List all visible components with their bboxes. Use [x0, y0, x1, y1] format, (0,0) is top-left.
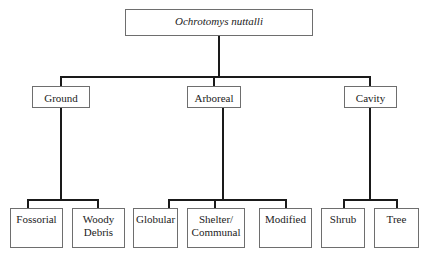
- node-ground: Ground: [32, 86, 90, 108]
- node-modified: Modified: [259, 208, 312, 248]
- node-arboreal-label: Arboreal: [194, 92, 233, 104]
- connector-arboreal-bar: [168, 199, 287, 201]
- connector-to-ground: [60, 76, 62, 86]
- node-woody-debris: Woody Debris: [72, 208, 125, 248]
- node-shelter-communal-label: Shelter/ Communal: [192, 213, 241, 238]
- node-modified-label: Modified: [265, 213, 306, 225]
- connector-to-shrub: [343, 199, 345, 208]
- node-arboreal: Arboreal: [187, 86, 241, 108]
- node-globular-label: Globular: [136, 213, 175, 225]
- node-globular: Globular: [133, 208, 178, 248]
- connector-to-globular: [168, 199, 170, 208]
- connector-to-tree: [396, 199, 398, 208]
- node-ground-label: Ground: [44, 92, 78, 104]
- connector-root-trunk: [218, 36, 220, 78]
- connector-to-shelter: [214, 199, 216, 208]
- node-tree: Tree: [374, 208, 419, 248]
- connector-to-cavity: [369, 76, 371, 86]
- connector-ground-down: [60, 108, 62, 201]
- node-cavity-label: Cavity: [356, 92, 385, 104]
- node-fossorial: Fossorial: [10, 208, 63, 248]
- node-tree-label: Tree: [387, 213, 407, 225]
- node-cavity: Cavity: [344, 86, 397, 108]
- root-label: Ochrotomys nuttalli: [175, 15, 263, 27]
- node-woody-debris-label: Woody Debris: [83, 213, 115, 238]
- connector-cavity-down: [369, 108, 371, 201]
- connector-to-modified: [285, 199, 287, 208]
- node-shrub-label: Shrub: [330, 213, 356, 225]
- connector-main-bar: [60, 76, 371, 78]
- connector-to-woody-debris: [97, 199, 99, 208]
- node-fossorial-label: Fossorial: [16, 213, 56, 225]
- node-shelter-communal: Shelter/ Communal: [187, 208, 245, 248]
- connector-ground-bar: [27, 199, 99, 201]
- root-node: Ochrotomys nuttalli: [125, 9, 313, 36]
- connector-arboreal-down: [222, 108, 224, 201]
- connector-to-arboreal: [213, 76, 215, 86]
- node-shrub: Shrub: [321, 208, 365, 248]
- connector-to-fossorial: [27, 199, 29, 208]
- connector-cavity-bar: [343, 199, 398, 201]
